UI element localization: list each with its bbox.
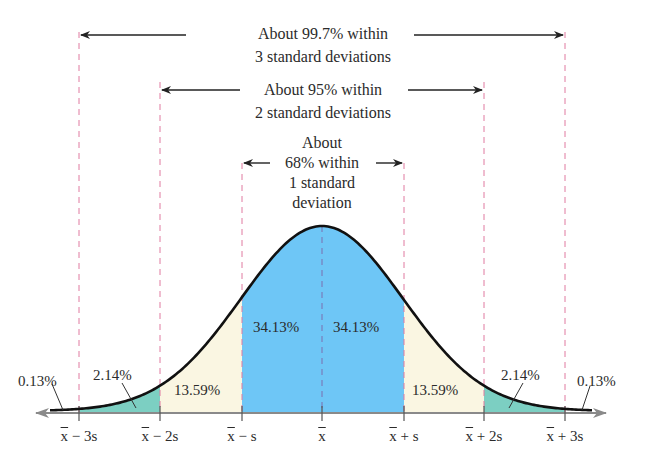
tick-label-m3: x − 3s [61, 427, 98, 445]
pct-right-2: 2.14% [501, 366, 540, 384]
tick-label-p2: x + 2s [466, 427, 503, 445]
annotation-1sd-line1: About [272, 133, 372, 153]
tick-label-p3: x + 3s [547, 427, 584, 445]
pct-left-tail: 0.13% [18, 372, 57, 390]
tick-label-m1: x − s [227, 427, 256, 445]
annotation-2sd-line1: About 95% within [237, 80, 409, 100]
annotation-2sd: About 95% within 2 standard deviations [237, 80, 409, 123]
pct-left-2: 2.14% [93, 366, 132, 384]
annotation-3sd-line2: 3 standard deviations [222, 47, 424, 67]
region-center [242, 200, 404, 413]
pct-center-left: 34.13% [253, 318, 299, 336]
tick-label-p1: x + s [389, 427, 418, 445]
pct-center-right: 34.13% [333, 318, 379, 336]
pct-left-1: 13.59% [174, 381, 220, 399]
annotation-1sd-line4: deviation [272, 193, 372, 213]
normal-distribution-chart [0, 0, 646, 462]
annotation-3sd: About 99.7% within 3 standard deviations [222, 24, 424, 67]
annotation-3sd-line1: About 99.7% within [222, 24, 424, 44]
annotation-1sd-line2: 68% within [272, 153, 372, 173]
annotation-2sd-line2: 2 standard deviations [237, 103, 409, 123]
pct-right-1: 13.59% [412, 381, 458, 399]
annotation-1sd-line3: 1 standard [272, 173, 372, 193]
pct-right-tail: 0.13% [577, 372, 616, 390]
annotation-1sd: About 68% within 1 standard deviation [272, 133, 372, 213]
tick-label-m2: x − 2s [142, 427, 179, 445]
tick-label-mean: x [318, 427, 326, 445]
